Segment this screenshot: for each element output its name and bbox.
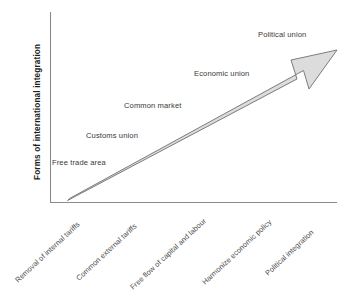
y-axis-title: Forms of international integration xyxy=(33,44,42,180)
tick-label-harmonize-economic-policy: Harmonize economic policy xyxy=(200,217,273,286)
stage-label-common-market: Common market xyxy=(124,101,182,110)
tick-label-political-integration: Political integration xyxy=(263,228,315,278)
x-axis-tick-labels: Removal of internal tariffs Common exter… xyxy=(13,216,315,291)
diagram-canvas: Free trade area Customs union Common mar… xyxy=(0,0,345,307)
axes-group xyxy=(50,12,337,203)
tick-label-common-external-tariffs: Common external tariffs xyxy=(74,222,138,283)
stage-label-free-trade-area: Free trade area xyxy=(52,158,107,167)
tick-label-removal-of-internal-tariffs: Removal of internal tariffs xyxy=(13,220,81,285)
tick-label-free-flow-of-capital-and-labour: Free flow of capital and labour xyxy=(128,216,208,291)
stage-label-economic-union: Economic union xyxy=(194,69,249,78)
integration-stages-diagram: Free trade area Customs union Common mar… xyxy=(0,0,345,307)
stage-label-political-union: Political union xyxy=(258,30,306,39)
stage-label-customs-union: Customs union xyxy=(86,131,138,140)
